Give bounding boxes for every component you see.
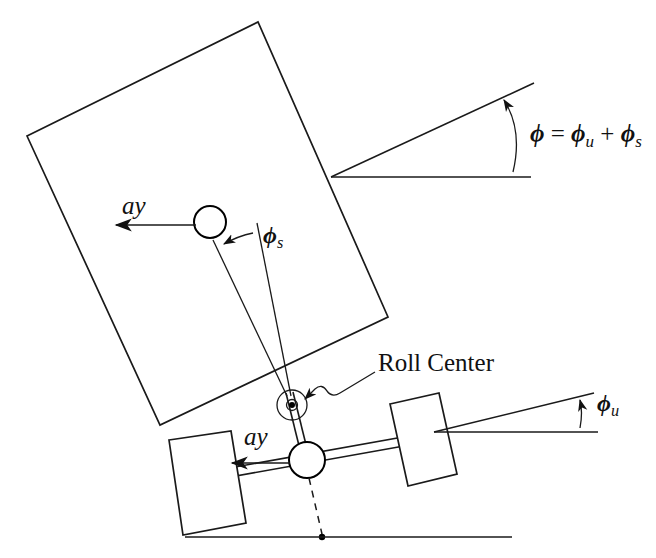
ay-unsprung-arrow-group: ay xyxy=(232,423,290,463)
roll-center-squiggle-line xyxy=(305,372,375,399)
unsprung-mass-cg-marker xyxy=(289,442,325,478)
phi-u-inclined-line xyxy=(434,393,594,432)
ay-sprung-label: ay xyxy=(122,192,147,219)
roll-model-diagram: ϕ = ϕu + ϕs ϕ = ϕu + ϕs ay ϕs xyxy=(0,0,656,558)
phi-u-label: ϕu xyxy=(597,390,619,420)
phi-u-angle-wedge xyxy=(434,393,598,432)
phi-u-angle-arc-arrow xyxy=(580,400,582,428)
roll-center-callout-leader xyxy=(305,372,375,399)
phi-total-equation: ϕ = ϕu + ϕs xyxy=(530,120,642,151)
roll-center-label: Roll Center xyxy=(378,349,495,376)
right-wheel xyxy=(390,393,457,486)
phi-angle-arc-arrow xyxy=(504,100,516,172)
left-wheel xyxy=(169,431,246,535)
ay-unsprung-label: ay xyxy=(244,423,269,450)
cg-ground-projection-dashed-line xyxy=(309,478,322,534)
sprung-mass-cg-marker xyxy=(194,206,226,238)
phi-inclined-line xyxy=(331,83,534,177)
roll-center-dot xyxy=(289,402,295,408)
diagram-canvas: ϕ = ϕu + ϕs ϕ = ϕu + ϕs ay ϕs xyxy=(0,0,656,558)
cg-circle-outline xyxy=(194,206,226,238)
unsprung-cg-circle-outline xyxy=(289,442,325,478)
phi-total-angle-wedge xyxy=(331,83,534,177)
